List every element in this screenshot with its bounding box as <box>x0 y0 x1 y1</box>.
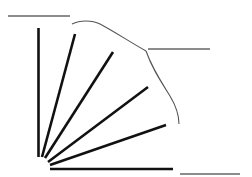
fan-diagram <box>0 0 252 177</box>
ray-line-4 <box>48 87 148 162</box>
arc-curve-1 <box>72 21 146 51</box>
arc-curve-2 <box>146 51 179 124</box>
ray-line-5 <box>50 125 166 165</box>
arc-curves <box>72 21 179 124</box>
